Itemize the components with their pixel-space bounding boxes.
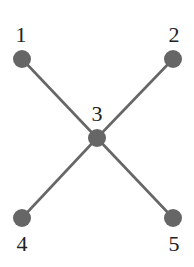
node-label-1: 1 [16,22,27,47]
node-label-5: 5 [169,231,180,256]
node-label-3: 3 [92,101,103,126]
graph-diagram: 1 2 3 4 5 [0,0,194,267]
edge-3-4 [22,138,97,218]
node-label-2: 2 [169,22,180,47]
edge-3-5 [97,138,173,218]
node-2 [164,50,182,68]
node-label-4: 4 [17,231,28,256]
edge-1-3 [22,59,97,138]
edge-2-3 [97,59,173,138]
node-3 [88,129,106,147]
node-1 [13,50,31,68]
node-4 [13,209,31,227]
node-5 [164,209,182,227]
